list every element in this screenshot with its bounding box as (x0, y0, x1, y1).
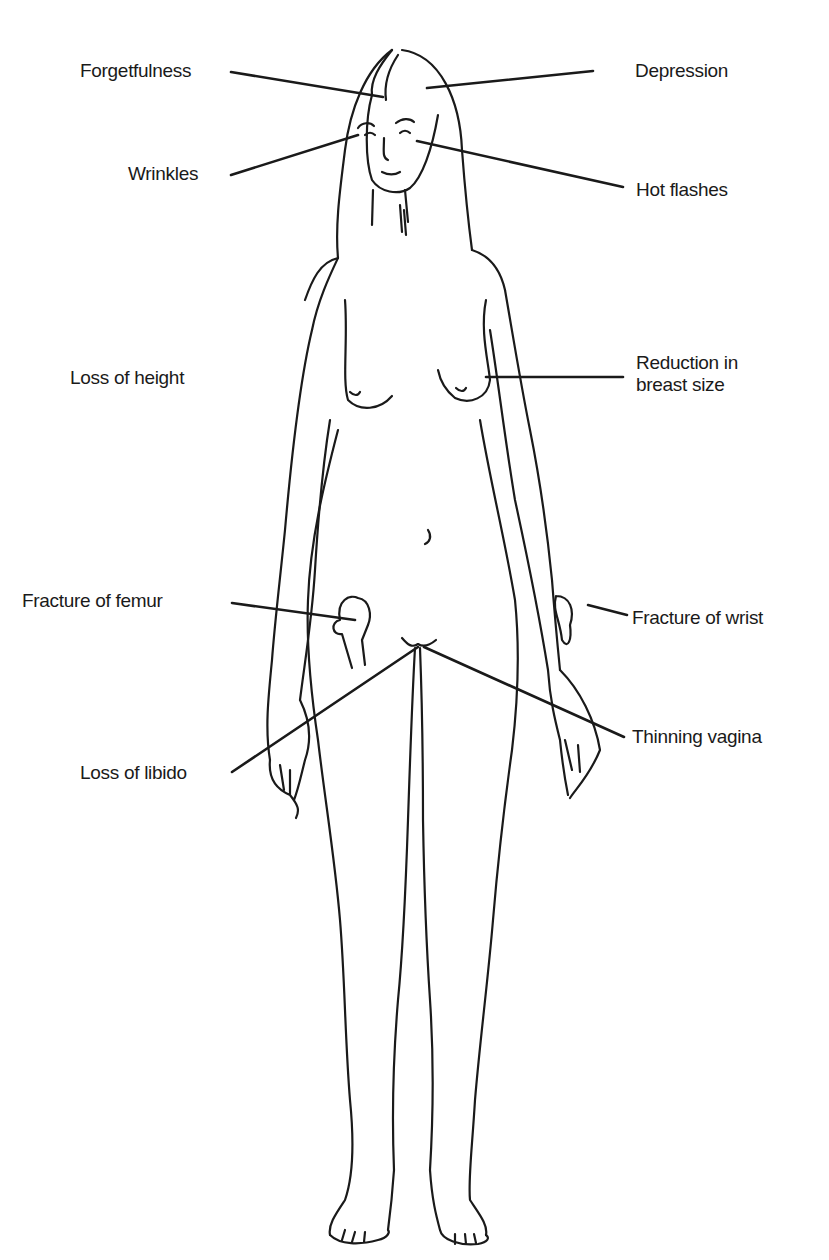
label-thinning-vagina: Thinning vagina (632, 726, 762, 748)
hair-outline (312, 50, 472, 330)
breasts (345, 300, 490, 408)
leader-lines (231, 71, 627, 772)
right-hand (548, 670, 600, 798)
left-leg-outer (318, 740, 352, 1235)
right-arm (490, 290, 560, 670)
groin (402, 638, 436, 646)
label-forgetfulness: Forgetfulness (80, 60, 191, 82)
right-foot (440, 1230, 488, 1244)
label-wrinkles: Wrinkles (128, 163, 198, 185)
femur-bone (333, 597, 369, 668)
label-fracture-of-femur: Fracture of femur (22, 590, 163, 612)
left-foot (330, 1230, 389, 1243)
label-loss-of-height: Loss of height (70, 367, 184, 389)
label-fracture-of-wrist: Fracture of wrist (632, 607, 763, 629)
waist-right (480, 420, 518, 750)
label-reduction-in-breast-size: Reduction in breast size (636, 352, 738, 396)
right-leg-inner (420, 648, 440, 1230)
left-hand (270, 700, 309, 818)
label-line-1: Reduction in (636, 352, 738, 374)
label-loss-of-libido: Loss of libido (80, 762, 187, 784)
left-leg-inner (388, 648, 415, 1230)
label-line-2: breast size (636, 374, 738, 396)
left-arm (267, 330, 330, 760)
right-leg-outer (469, 750, 512, 1235)
navel (425, 530, 430, 544)
label-depression: Depression (635, 60, 728, 82)
torso-outline (305, 250, 505, 300)
label-hot-flashes: Hot flashes (636, 179, 728, 201)
